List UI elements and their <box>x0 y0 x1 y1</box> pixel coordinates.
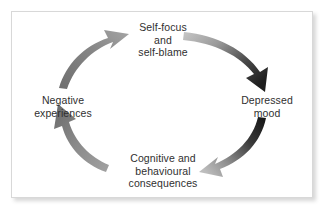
node-self-focus-line-1: Self-focus <box>98 21 228 34</box>
node-self-focus-and-self-blame: Self-focus and self-blame <box>98 21 228 59</box>
node-cognitive-behavioural-consequences: Cognitive and behavioural consequences <box>100 152 226 190</box>
cycle-diagram-panel: Self-focus and self-blame Depressed mood… <box>11 11 313 198</box>
node-depressed-mood-line-2: mood <box>220 107 314 120</box>
node-depressed-mood-line-1: Depressed <box>220 94 314 107</box>
node-cognitive-line-2: behavioural <box>100 165 226 178</box>
node-negative-experiences: Negative experiences <box>16 94 110 119</box>
node-cognitive-line-1: Cognitive and <box>100 152 226 165</box>
node-self-focus-line-3: self-blame <box>98 46 228 59</box>
node-self-focus-line-2: and <box>98 34 228 47</box>
node-negative-line-2: experiences <box>16 107 110 120</box>
figure-root: Self-focus and self-blame Depressed mood… <box>0 0 331 217</box>
node-cognitive-line-3: consequences <box>100 177 226 190</box>
node-depressed-mood: Depressed mood <box>220 94 314 119</box>
node-negative-line-1: Negative <box>16 94 110 107</box>
